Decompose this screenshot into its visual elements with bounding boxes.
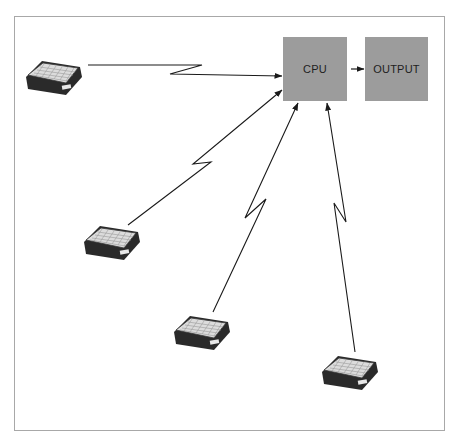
terminal-icon xyxy=(170,310,232,352)
cpu-node: CPU xyxy=(283,37,347,101)
terminal-icon xyxy=(80,220,142,262)
terminal-4 xyxy=(318,350,380,392)
terminal-1 xyxy=(22,55,84,97)
output-node: OUTPUT xyxy=(365,37,428,101)
output-label: OUTPUT xyxy=(373,63,419,75)
cpu-label: CPU xyxy=(303,63,327,75)
terminal-2 xyxy=(80,220,142,262)
terminal-icon xyxy=(318,350,380,392)
terminal-icon xyxy=(22,55,84,97)
terminal-3 xyxy=(170,310,232,352)
